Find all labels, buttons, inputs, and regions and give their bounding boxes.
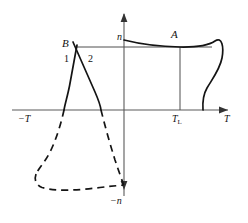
mirrored-characteristic-2 [101, 110, 124, 185]
load-torque-symbol: T [172, 113, 178, 124]
speed-torque-figure: n −n T −T A B 1 2 TL [0, 0, 248, 223]
natural-motor-characteristic [124, 40, 223, 110]
braking-characteristic-2 [73, 42, 101, 110]
axis-label-n: n [117, 32, 122, 42]
curve-label-1: 1 [64, 54, 69, 64]
guide-group [77, 47, 212, 110]
point-label-b: B [62, 38, 69, 49]
load-torque-label: TL [172, 114, 182, 124]
load-torque-subscript: L [178, 118, 182, 126]
point-label-a: A [171, 29, 178, 40]
curve-label-2: 2 [88, 54, 93, 64]
figure-canvas [0, 0, 248, 223]
vertical-axis-arrow-up [121, 13, 128, 22]
mirrored-characteristic-1 [36, 110, 64, 174]
axis-label-negative-n: −n [110, 196, 122, 206]
axis-label-T: T [224, 114, 230, 124]
mirrored-natural-characteristic [35, 174, 123, 190]
axis-label-negative-T: −T [18, 114, 30, 124]
